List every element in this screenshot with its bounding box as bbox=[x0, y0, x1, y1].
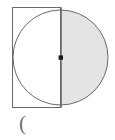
caption-area: ( bbox=[0, 108, 115, 140]
geometry-figure: ( bbox=[0, 0, 115, 140]
center-point-marker bbox=[59, 55, 63, 59]
caption-paren-text: ( bbox=[19, 110, 26, 136]
